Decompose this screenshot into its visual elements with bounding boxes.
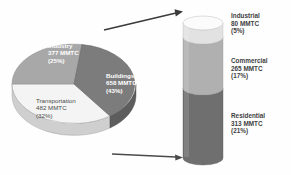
bar-label-residential-name: Residential <box>231 112 265 120</box>
bar-label-industrial-percent: (5%) <box>231 27 260 35</box>
bar-label-commercial-value: 265 MMTC <box>231 65 268 73</box>
figure-canvas: Industry 377 MMTC (25%) Buildings 658 MM… <box>0 0 291 175</box>
bar-label-commercial: Commercial 265 MMTC (17%) <box>231 57 268 80</box>
pie-label-industry: Industry 377 MMTC (25%) <box>48 42 79 64</box>
bar-label-residential: Residential 313 MMTC (21%) <box>231 112 265 135</box>
pie-label-industry-value: 377 MMTC <box>48 49 79 56</box>
bar-label-residential-value: 313 MMTC <box>231 120 265 128</box>
breakout-cylinder <box>183 16 223 165</box>
pie-label-transportation-percent: (32%) <box>36 112 76 119</box>
pie-label-transportation-name: Transportation <box>36 97 76 104</box>
pie-label-transportation-value: 482 MMTC <box>36 104 76 111</box>
bottom-callout-arrow <box>112 154 183 161</box>
cylinder-highlight <box>184 24 189 157</box>
pie-label-buildings-value: 658 MMTC <box>106 79 137 86</box>
top-callout-arrow <box>104 9 183 30</box>
pie-label-industry-percent: (25%) <box>48 57 79 64</box>
pie-label-industry-name: Industry <box>48 42 79 49</box>
bar-label-industrial: Industrial 80 MMTC (5%) <box>231 12 260 35</box>
pie-label-buildings-name: Buildings <box>106 72 137 79</box>
pie-label-buildings-percent: (43%) <box>106 87 137 94</box>
bar-label-commercial-percent: (17%) <box>231 72 268 80</box>
bar-label-industrial-value: 80 MMTC <box>231 20 260 28</box>
pie-label-buildings: Buildings 658 MMTC (43%) <box>106 72 137 94</box>
bar-label-industrial-name: Industrial <box>231 12 260 20</box>
bar-label-residential-percent: (21%) <box>231 127 265 135</box>
pie-label-transportation: Transportation 482 MMTC (32%) <box>36 97 76 119</box>
bar-label-commercial-name: Commercial <box>231 57 268 65</box>
